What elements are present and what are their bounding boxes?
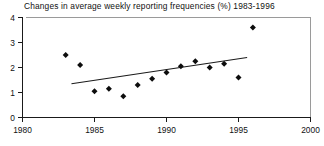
data-point	[178, 63, 184, 69]
x-axis-ticks: 19801985199019952000	[13, 118, 320, 136]
x-tick-label: 1995	[229, 125, 248, 135]
x-tick-label: 1990	[157, 125, 176, 135]
data-point	[192, 58, 198, 64]
data-point	[149, 76, 155, 82]
scatter-plot: 01234 19801985199019952000	[0, 0, 324, 146]
x-tick-label: 1980	[13, 125, 32, 135]
y-tick-label: 1	[10, 88, 15, 98]
data-point	[63, 52, 69, 58]
data-points-group	[63, 25, 256, 100]
y-tick-label: 0	[10, 113, 15, 123]
chart-container: Changes in average weekly reporting freq…	[0, 0, 324, 146]
y-tick-label: 3	[10, 38, 15, 48]
data-point	[120, 93, 126, 99]
data-point	[207, 65, 213, 71]
y-axis-ticks: 01234	[10, 13, 22, 123]
data-point	[77, 62, 83, 68]
data-point	[135, 82, 141, 88]
data-point	[92, 88, 98, 94]
x-tick-label: 1985	[85, 125, 104, 135]
x-tick-label: 2000	[301, 125, 320, 135]
trend-line-group	[71, 58, 247, 84]
y-tick-label: 4	[10, 13, 15, 23]
data-point	[250, 25, 256, 31]
plot-frame	[22, 17, 311, 118]
y-tick-label: 2	[10, 63, 15, 73]
trend-line	[71, 58, 247, 84]
data-point	[236, 75, 242, 81]
data-point	[106, 86, 112, 92]
